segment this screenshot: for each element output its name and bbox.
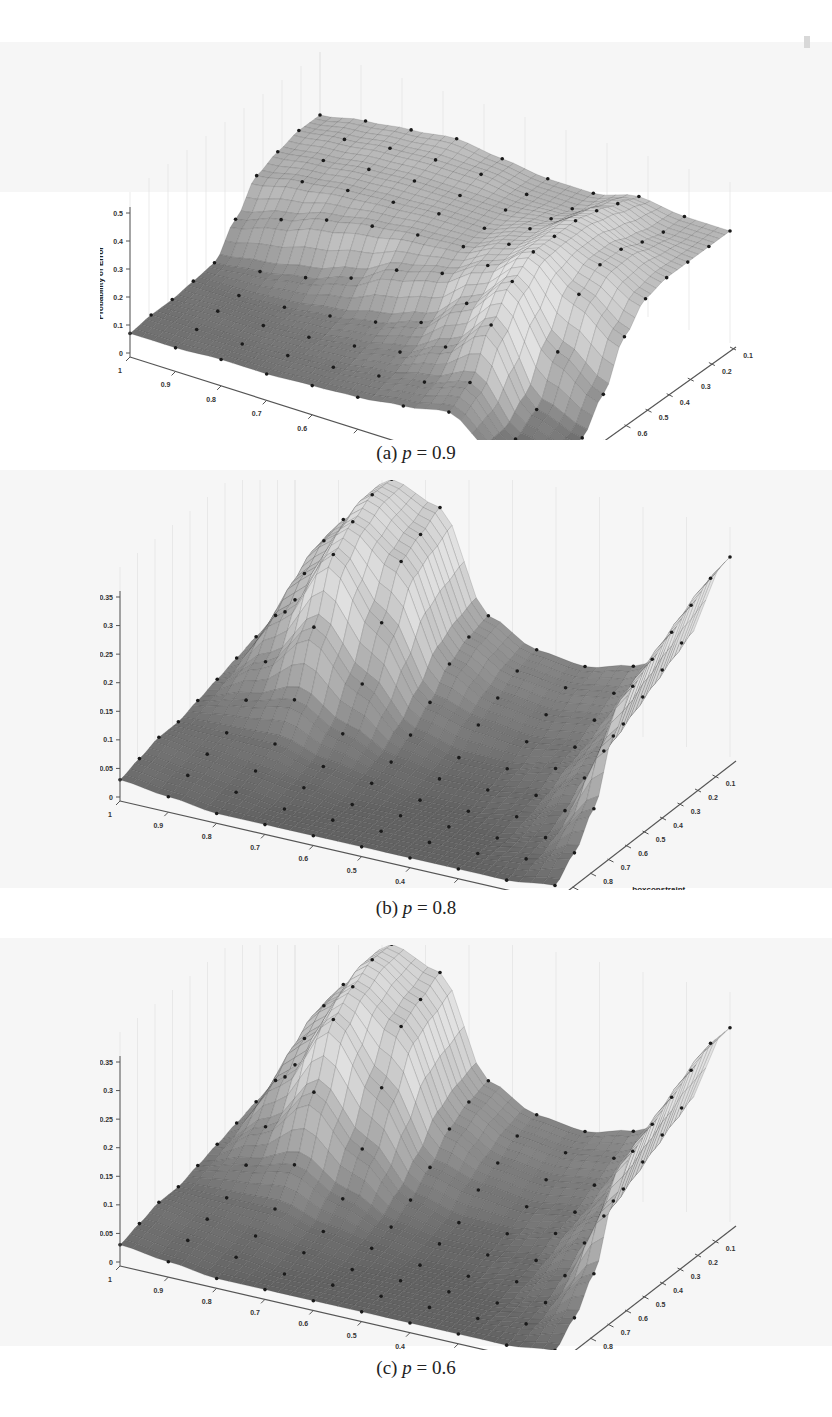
sigma-tick [358,857,362,861]
data-point-marker [467,1274,471,1278]
data-point-marker [489,323,493,327]
data-point-marker [418,798,422,802]
data-point-marker [709,576,713,580]
data-point-marker [619,247,623,251]
boxconstraint-tick-label: 0.1 [743,352,753,359]
data-point-marker [303,1037,307,1041]
data-point-marker [341,732,345,736]
sigma-tick [126,357,130,361]
data-point-marker [532,250,536,254]
data-point-marker [483,226,487,230]
data-point-marker [283,807,287,811]
data-point-marker [402,404,406,408]
sigma-tick [309,845,313,849]
data-point-marker [447,825,451,829]
data-point-marker [495,836,499,840]
data-point-marker [215,812,219,816]
data-point-marker [263,1288,267,1292]
boxconstraint-tick-label: 0.8 [603,878,613,885]
z-tick-label: 0.5 [113,210,123,217]
data-point-marker [602,393,606,397]
data-point-marker [177,720,181,724]
sigma-tick-label: 0.9 [153,822,163,829]
data-point-marker [215,1142,219,1146]
data-point-marker [622,1187,626,1191]
data-point-marker [486,1253,490,1257]
data-point-marker [602,749,606,753]
sigma-tick [213,1288,217,1292]
data-point-marker [351,985,355,989]
caption-c-prefix: (c) [376,1357,402,1378]
data-point-marker [640,240,644,244]
data-point-marker [546,177,550,181]
data-point-marker [680,1106,684,1110]
data-point-marker [235,656,239,660]
data-point-marker [455,137,459,141]
data-point-marker [413,179,417,183]
sigma-tick [116,801,120,805]
data-point-marker [423,380,427,384]
z-tick-label: 0.2 [103,679,113,686]
z-tick-label: 0.35 [100,594,113,601]
boxconstraint-tick-label: 0.4 [680,399,690,406]
boxconstraint-tick-label: 0.4 [673,822,683,829]
data-point-marker [632,664,636,668]
data-point-marker [395,268,399,272]
sigma-tick [308,415,312,419]
data-point-marker [341,1197,345,1201]
data-point-marker [479,173,483,177]
data-point-marker [465,302,469,306]
sigma-tick [116,1266,120,1270]
sigma-tick-label: 0.4 [395,1343,405,1350]
data-point-marker [379,1294,383,1298]
data-point-marker [274,614,278,618]
data-point-marker [370,224,374,228]
data-point-marker [418,1263,422,1267]
sigma-tick [164,812,168,816]
data-point-marker [342,983,346,987]
data-point-marker [332,553,336,557]
boxconstraint-tick-label: 0.3 [701,383,711,390]
data-point-marker [535,408,539,412]
z-tick-label: 0.1 [103,736,113,743]
data-point-marker [389,760,393,764]
data-point-marker [467,809,471,813]
boxconstraint-tick-label: 0.3 [691,808,701,815]
data-point-marker [434,158,438,162]
z-tick-label: 0.05 [100,765,113,772]
data-point-marker [515,1134,519,1138]
data-point-marker [728,1026,732,1030]
data-point-marker [515,669,519,673]
data-point-marker [265,372,269,376]
data-point-marker [264,1125,268,1129]
data-point-marker [367,168,371,172]
z-tick-label: 0.25 [100,1116,113,1123]
data-point-marker [293,698,297,702]
data-point-marker [225,731,229,735]
data-point-marker [379,829,383,833]
data-point-marker [689,1068,693,1072]
data-point-marker [240,342,244,346]
data-point-marker [665,276,669,280]
data-point-marker [219,358,223,362]
data-point-marker [254,635,258,639]
data-point-marker [662,230,666,234]
data-point-marker [255,174,259,178]
sigma-tick [454,1344,458,1348]
data-point-marker [505,767,509,771]
data-point-marker [264,660,268,664]
data-point-marker [286,354,290,358]
data-point-marker [592,1272,596,1276]
data-point-marker [328,314,332,318]
sigma-tick-label: 1 [118,367,122,374]
data-point-marker [544,1301,548,1305]
data-point-marker [408,1321,412,1325]
data-point-marker [457,1221,461,1225]
data-point-marker [322,1004,326,1008]
z-tick-label: 0.3 [103,1087,113,1094]
data-point-marker [553,884,557,888]
data-point-marker [447,1290,451,1294]
data-point-marker [283,305,287,309]
sigma-tick [354,429,358,433]
data-point-marker [544,1178,548,1182]
